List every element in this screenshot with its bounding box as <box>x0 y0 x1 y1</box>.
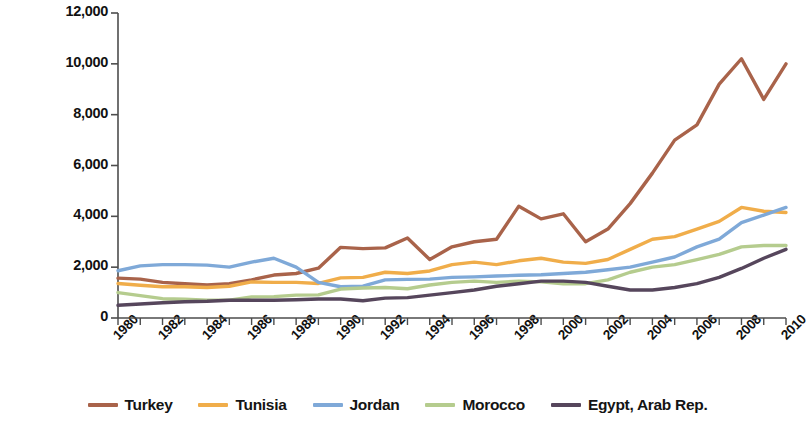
x-axis-ticks <box>118 318 786 325</box>
chart-legend: TurkeyTunisiaJordanMoroccoEgypt, Arab Re… <box>0 396 795 414</box>
legend-item-morocco[interactable]: Morocco <box>425 396 525 414</box>
series-lines <box>118 59 786 306</box>
legend-swatch-jordan <box>313 403 343 408</box>
y-axis-ticks <box>111 13 118 318</box>
legend-item-egypt-arab-rep[interactable]: Egypt, Arab Rep. <box>551 396 708 414</box>
legend-label-egypt-arab-rep: Egypt, Arab Rep. <box>588 396 708 414</box>
legend-label-turkey: Turkey <box>125 396 173 414</box>
legend-swatch-tunisia <box>198 403 228 408</box>
legend-swatch-turkey <box>88 403 118 408</box>
legend-item-jordan[interactable]: Jordan <box>313 396 400 414</box>
legend-label-jordan: Jordan <box>350 396 400 414</box>
legend-swatch-egypt-arab-rep <box>551 403 581 408</box>
axis-lines <box>118 13 786 318</box>
legend-label-morocco: Morocco <box>462 396 525 414</box>
legend-swatch-morocco <box>425 403 455 408</box>
legend-item-turkey[interactable]: Turkey <box>88 396 173 414</box>
legend-item-tunisia[interactable]: Tunisia <box>198 396 286 414</box>
legend-label-tunisia: Tunisia <box>235 396 286 414</box>
